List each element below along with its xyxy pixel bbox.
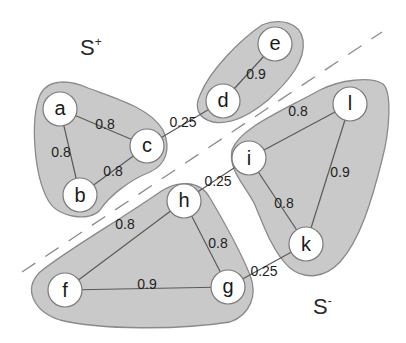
weight-i-l: 0.8 bbox=[288, 103, 308, 119]
node-f-label: f bbox=[62, 279, 68, 301]
set-label-negative: S- bbox=[313, 294, 332, 319]
node-f: f bbox=[48, 273, 82, 307]
node-c: c bbox=[130, 129, 164, 163]
graph-cut-diagram: 0.8 0.8 0.8 0.25 0.9 0.8 0.9 0.8 0.25 0.… bbox=[0, 0, 406, 343]
node-e: e bbox=[258, 27, 292, 61]
weight-h-i: 0.25 bbox=[204, 173, 231, 189]
weight-h-f: 0.8 bbox=[115, 216, 135, 232]
node-b-label: b bbox=[74, 184, 85, 206]
set-negative-sup: - bbox=[328, 294, 332, 308]
weight-b-c: 0.8 bbox=[103, 163, 123, 179]
set-positive-sup: + bbox=[95, 35, 102, 49]
node-h-label: h bbox=[178, 189, 189, 211]
weight-d-e: 0.9 bbox=[246, 66, 266, 82]
set-label-positive: S+ bbox=[80, 35, 102, 60]
node-g: g bbox=[211, 270, 245, 304]
node-k: k bbox=[289, 227, 323, 261]
node-b: b bbox=[63, 178, 97, 212]
node-c-label: c bbox=[142, 134, 152, 156]
weight-l-k: 0.9 bbox=[330, 164, 350, 180]
node-k-label: k bbox=[301, 233, 312, 255]
set-positive-base: S bbox=[80, 35, 95, 60]
node-d: d bbox=[206, 84, 240, 118]
node-a: a bbox=[43, 92, 77, 126]
node-e-label: e bbox=[269, 32, 280, 54]
weight-g-k: 0.25 bbox=[250, 263, 277, 279]
node-l: l bbox=[333, 87, 367, 121]
node-d-label: d bbox=[217, 89, 228, 111]
weight-a-b: 0.8 bbox=[51, 144, 71, 160]
node-i: i bbox=[232, 141, 266, 175]
weight-h-g: 0.8 bbox=[208, 235, 228, 251]
node-a-label: a bbox=[54, 97, 66, 119]
node-h: h bbox=[167, 184, 201, 218]
weight-a-c: 0.8 bbox=[95, 116, 115, 132]
node-i-label: i bbox=[247, 147, 251, 169]
set-negative-base: S bbox=[313, 294, 328, 319]
weight-i-k: 0.8 bbox=[274, 195, 294, 211]
weight-c-d: 0.25 bbox=[169, 114, 196, 130]
weight-f-g: 0.9 bbox=[137, 276, 157, 292]
node-l-label: l bbox=[348, 92, 352, 114]
node-g-label: g bbox=[222, 275, 233, 297]
